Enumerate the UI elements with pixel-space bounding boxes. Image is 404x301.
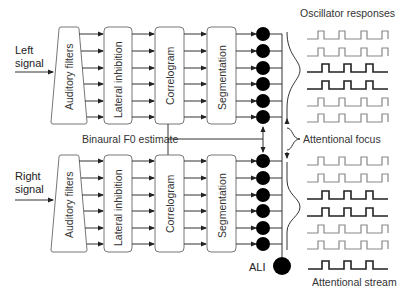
arrows-corr-seg-left	[184, 34, 206, 117]
oscillator-wave-attended	[307, 64, 388, 72]
oscillator-node	[256, 237, 270, 251]
oscillator-node	[256, 44, 270, 58]
auditory-filters-label-right: Auditory filters	[63, 171, 75, 238]
arrows-seg-nodes-left	[236, 34, 256, 117]
oscillator-waves-top	[307, 31, 388, 122]
attentional-stream-label: Attentional stream	[312, 276, 397, 288]
ali-node	[273, 257, 291, 275]
left-signal-label-line1: Left	[15, 44, 33, 56]
ali-bus: ALI	[249, 34, 291, 275]
lateral-inhibition-label-right: Lateral inhibition	[112, 169, 124, 246]
oscillator-node	[256, 154, 270, 168]
binaural-f0-label: Binaural F0 estimate	[82, 133, 178, 145]
attentional-stream-wave	[308, 261, 388, 269]
attentional-focus-label: Attentional focus	[303, 133, 381, 145]
oscillator-wave	[307, 174, 388, 182]
oscillator-waves-bottom	[307, 157, 388, 249]
oscillator-node	[256, 221, 270, 235]
focus-brace	[287, 128, 300, 150]
auditory-filters-label-left: Auditory filters	[63, 43, 75, 110]
oscillator-node	[256, 110, 270, 124]
oscillator-wave-attended	[307, 208, 388, 216]
oscillator-wave	[307, 31, 388, 39]
oscillator-nodes-right	[256, 154, 282, 251]
oscillator-wave-attended	[307, 81, 388, 89]
oscillator-node	[256, 188, 270, 202]
oscillator-node	[256, 204, 270, 218]
oscillator-node	[256, 171, 270, 185]
arrows-corr-seg-right	[184, 161, 206, 244]
right-signal-label-line1: Right	[15, 170, 41, 182]
left-signal-label-line2: signal	[15, 57, 44, 69]
arrows-li-corr-right	[132, 161, 154, 244]
arrows-seg-nodes-right	[236, 161, 256, 244]
correlogram-label-right: Correlogram	[164, 174, 176, 233]
oscillator-node	[256, 27, 270, 41]
oscillator-wave	[307, 157, 388, 165]
binaural-f0-connection: Binaural F0 estimate	[80, 124, 263, 155]
oscillator-wave	[307, 114, 388, 122]
segmentation-label-right: Segmentation	[216, 173, 228, 238]
oscillator-nodes-left	[256, 27, 282, 124]
oscillator-responses-title: Oscillator responses	[300, 7, 395, 19]
arrows-li-corr-left	[132, 34, 154, 117]
oscillator-wave-attended	[307, 191, 388, 199]
oscillator-wave	[307, 225, 388, 233]
ali-label: ALI	[249, 261, 266, 273]
oscillator-wave	[307, 98, 388, 106]
oscillator-node	[256, 61, 270, 75]
oscillator-node	[256, 94, 270, 108]
focus-curve-top	[287, 32, 300, 120]
focus-curve-bottom	[287, 162, 300, 250]
diagram-canvas: Left signal Auditory filters Lateral inh…	[0, 0, 404, 301]
left-signal-group: Left signal Auditory filters Lateral inh…	[15, 27, 282, 124]
right-signal-label-line2: signal	[15, 183, 44, 195]
right-signal-group: Right signal Auditory filters Lateral in…	[15, 154, 282, 252]
lateral-inhibition-label-left: Lateral inhibition	[112, 41, 124, 118]
oscillator-wave	[307, 48, 388, 56]
segmentation-label-left: Segmentation	[216, 45, 228, 110]
correlogram-label-left: Correlogram	[164, 46, 176, 105]
oscillator-node	[256, 77, 270, 91]
oscillator-wave	[307, 241, 388, 249]
